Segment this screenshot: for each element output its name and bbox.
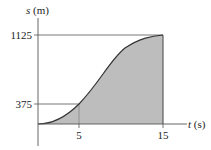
x-axis-label: t (s) [188,118,206,131]
ytick-label-1125: 1125 [10,29,32,41]
area-under-curve [38,35,163,124]
y-axis-label: s (m) [26,4,49,17]
position-time-chart: s (m) 1125 375 5 15 t (s) [0,0,211,150]
xtick-label-5: 5 [76,129,82,141]
ytick-label-375: 375 [16,98,33,110]
xtick-label-15: 15 [158,129,170,141]
